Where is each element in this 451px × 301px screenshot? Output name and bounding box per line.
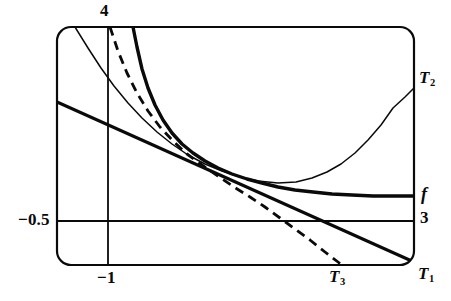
curve-t3 xyxy=(110,27,343,266)
plot-frame xyxy=(57,27,414,265)
plot-canvas xyxy=(0,0,451,301)
figure-root: 4 −0.5 −1 3 f T1 T2 T3 xyxy=(0,0,451,301)
axis-tick-label-top: 4 xyxy=(100,2,109,19)
curve-label-t3: T3 xyxy=(329,268,345,285)
axis-tick-label-right: 3 xyxy=(420,209,429,226)
curve-f xyxy=(133,27,414,196)
curve-label-t2-base: T xyxy=(419,68,429,87)
curve-label-t1-subscript: 1 xyxy=(429,273,434,284)
curve-label-t1-base: T xyxy=(418,264,428,283)
curve-label-t2: T2 xyxy=(419,69,435,86)
curve-t2 xyxy=(75,27,414,183)
curve-label-t3-subscript: 3 xyxy=(340,276,345,287)
curve-label-t3-base: T xyxy=(329,267,339,286)
curve-label-f: f xyxy=(421,185,427,203)
curve-label-t2-subscript: 2 xyxy=(430,77,435,88)
curve-label-t1: T1 xyxy=(418,265,434,282)
axis-tick-label-bottom: −1 xyxy=(97,269,116,286)
curve-t1 xyxy=(57,102,414,262)
axis-tick-label-left: −0.5 xyxy=(18,211,50,228)
